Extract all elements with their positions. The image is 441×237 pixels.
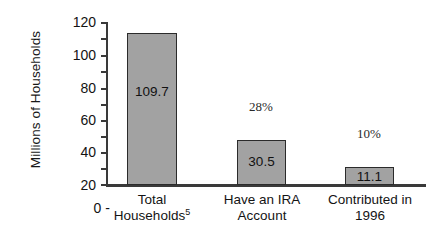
y-axis-title: Millions of Households [28, 5, 43, 195]
y-tick-label-60: 60 [50, 113, 96, 127]
x-label-line1: Total [138, 192, 167, 207]
x-label-line2-text: Households [114, 208, 185, 223]
y-tick-mark-70 [101, 104, 107, 106]
x-category-label-have-an-ira-account: Have an IRA Account [202, 192, 322, 223]
bar-value-label-have-an-ira-account: 30.5 [237, 154, 286, 169]
y-tick-mark-80 [101, 88, 107, 90]
x-label-line2: Households5 [92, 208, 212, 224]
y-tick-label-100: 100 [50, 48, 96, 62]
y-tick-mark-30 [101, 168, 107, 170]
x-label-footnote-marker: 5 [185, 206, 190, 216]
y-tick-mark-20 [101, 184, 107, 186]
y-tick-mark-40 [101, 152, 107, 154]
x-category-label-contributed-in-1996: Contributed in 1996 [310, 192, 430, 223]
y-tick-label-20: 20 [50, 178, 96, 192]
y-tick-mark-60 [101, 120, 107, 122]
x-category-label-total-households: Total Households5 [92, 192, 212, 223]
y-tick-mark-120 [101, 22, 107, 24]
bar-value-label-contributed-in-1996: 11.1 [345, 169, 394, 184]
bar-total-households [127, 33, 177, 185]
bar-value-label-total-households: 109.7 [127, 84, 177, 99]
x-label-line2: Account [202, 208, 322, 224]
y-tick-label-80: 80 [50, 81, 96, 95]
x-label-line1: Have an IRA [224, 192, 301, 207]
y-tick-mark-110 [101, 38, 107, 40]
x-label-line1: Contributed in [328, 192, 412, 207]
y-tick-label-40: 40 [50, 145, 96, 159]
y-tick-mark-50 [101, 136, 107, 138]
y-tick-mark-90 [101, 71, 107, 73]
y-tick-label-120: 120 [50, 15, 96, 29]
y-tick-mark-100 [101, 55, 107, 57]
bar-chart: Millions of Households 120 100 80 60 40 … [0, 0, 441, 237]
x-label-line2: 1996 [310, 208, 430, 224]
bar-percent-label-contributed-in-1996: 10% [339, 126, 399, 142]
bar-percent-label-have-an-ira-account: 28% [231, 99, 291, 115]
